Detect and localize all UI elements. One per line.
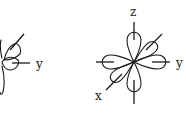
orbital-left: y (0, 34, 43, 94)
axis-diagonal (10, 34, 24, 50)
axis-x-upper (146, 34, 162, 50)
axis-x-lower (106, 74, 122, 90)
lobe-lower (0, 66, 4, 94)
label-y: y (175, 56, 183, 70)
label-z: z (130, 5, 136, 19)
lobe-upper-right (134, 42, 158, 62)
lobe-lower-left (110, 62, 134, 82)
label-x: x (95, 89, 102, 103)
orbital-diagrams: y z y x (0, 0, 186, 114)
lobe-upper-left (0, 40, 2, 58)
orbital-right: z y x (95, 5, 183, 104)
label-y: y (35, 57, 43, 71)
